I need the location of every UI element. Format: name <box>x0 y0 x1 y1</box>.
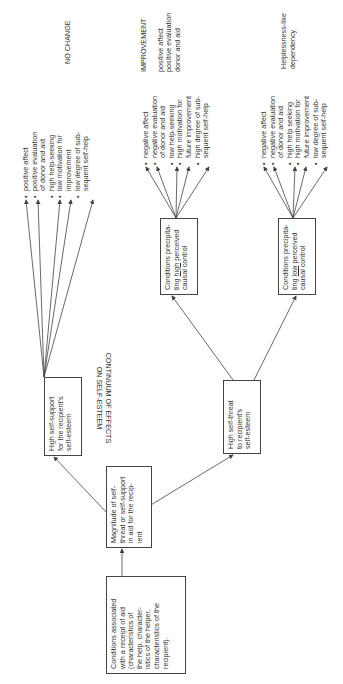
list-item: negative evaluationof donor and aid <box>269 96 286 165</box>
list-item: low degree of sub-sequent self-help <box>74 132 91 198</box>
continuum-line-2: ON SELF-ESTEEM <box>95 338 104 458</box>
helplessness-label-line: dependency <box>289 13 298 69</box>
continuum-label: CONTINUUM OF EFFECTS ON SELF-ESTEEM <box>95 338 112 458</box>
no-change-list: positive affect positive evaluationof do… <box>22 132 91 198</box>
list-item: high motivation forfuture improvement <box>176 96 193 165</box>
high-control-line-3: causal control <box>181 223 190 290</box>
list-item: positive evaluationof donor and aid <box>31 132 48 198</box>
no-change-label: NO CHANGE <box>64 20 73 64</box>
conditions-box: Conditions associated with a receipt of … <box>106 576 186 674</box>
list-item: high motivation forfuture improvement <box>294 96 311 165</box>
magnitude-box: Magnitude of self- threat or self-suppor… <box>106 466 152 548</box>
high-threat-box: High self-threat to recipient's self-est… <box>223 380 261 454</box>
helplessness-label: Helplessness-like dependency <box>280 13 297 69</box>
diagram-canvas: Conditions associated with a receipt of … <box>0 0 343 684</box>
high-support-line: self-esteem <box>65 382 74 451</box>
low-control-line-3: causal control <box>299 223 308 290</box>
helplessness-list: negative affect negative evaluationof do… <box>260 96 329 165</box>
list-item: negative evaluationof donor and aid <box>151 96 168 165</box>
magnitude-line: ient <box>136 471 145 543</box>
high-control-box: Conditions precipita- ting high perceive… <box>160 218 198 295</box>
high-threat-line: self-esteem <box>244 385 253 449</box>
high-support-box: High self-support for the recipient's se… <box>44 377 82 456</box>
improvement-list: negative affect negative evaluationof do… <box>142 96 211 165</box>
improvement-extra-line: donor and aid <box>174 13 183 72</box>
low-control-box: Conditions precipita- ting low perceived… <box>278 218 316 295</box>
improvement-label: IMPROVEMENT <box>140 13 149 72</box>
list-item: low motivation forimprovement <box>56 132 73 198</box>
list-item: high degree of sub-sequent self-help <box>194 96 211 165</box>
list-item: low degree of sub-sequent self-help <box>312 96 329 165</box>
continuum-line-1: CONTINUUM OF EFFECTS <box>104 338 113 458</box>
improvement-label-block: IMPROVEMENT positive affect positive eva… <box>140 13 182 72</box>
conditions-line: recipient). <box>162 581 171 669</box>
